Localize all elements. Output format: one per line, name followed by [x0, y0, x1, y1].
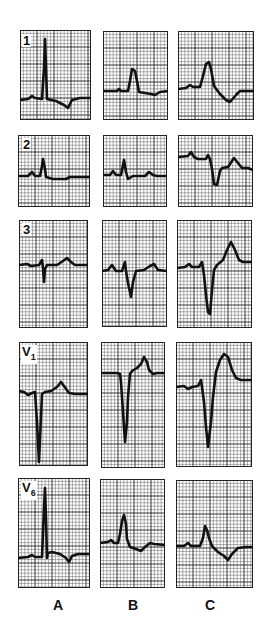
ecg-trace	[102, 262, 167, 297]
ecg-trace	[100, 515, 165, 551]
column-label-b: B	[123, 597, 143, 613]
column-label-c: C	[200, 597, 220, 613]
ecg-panel-lead-1-col-c	[178, 31, 254, 120]
ecg-grid	[176, 480, 253, 588]
ecg-grid	[103, 31, 168, 120]
lead-label-1: 1	[22, 34, 31, 47]
ecg-panel-lead-1-col-b	[103, 31, 168, 120]
ecg-panel-lead-2-col-b	[103, 135, 167, 207]
ecg-panel-lead-3-col-b	[102, 220, 167, 327]
ecg-panel-lead-v6-col-c	[176, 480, 253, 588]
ecg-panel-lead-v1-col-c	[176, 342, 252, 467]
ecg-grid	[178, 31, 254, 120]
ecg-grid	[102, 220, 167, 327]
lead-label-2: 2	[22, 138, 31, 151]
ecg-grid	[178, 135, 253, 207]
lead-label-3: 3	[22, 223, 31, 236]
ecg-panel-lead-2-col-c	[178, 135, 253, 207]
ecg-grid	[103, 135, 167, 207]
column-label-a: A	[48, 597, 68, 613]
ecg-grid	[177, 220, 252, 328]
lead-label-v1: V1	[21, 345, 37, 364]
ecg-panel-lead-v6-col-b	[100, 479, 165, 588]
ecg-panel-lead-v1-col-b	[101, 342, 165, 468]
ecg-grid	[176, 342, 252, 467]
ecg-grid	[100, 479, 165, 588]
ecg-panel-lead-3-col-c	[177, 220, 252, 328]
ecg-grid	[101, 342, 165, 468]
lead-label-v6: V6	[21, 481, 37, 500]
